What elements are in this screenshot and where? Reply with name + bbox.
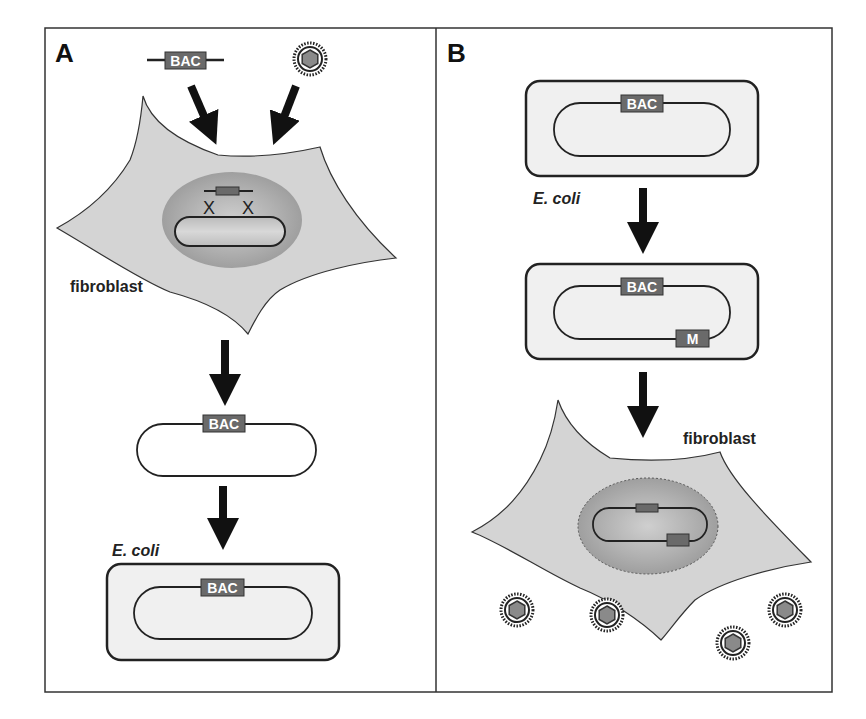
ecoli-label-b: E. coli	[533, 190, 581, 207]
fibroblast-label-a: fibroblast	[70, 278, 144, 295]
progeny-virion-icon	[769, 594, 801, 626]
panel-label-a: A	[55, 38, 74, 68]
progeny-virion-icon	[501, 594, 533, 626]
viral-genome	[175, 217, 285, 246]
bac-label-b2: BAC	[627, 279, 657, 295]
arrow-bac-into-cell	[191, 86, 210, 130]
ecoli-cell-a	[107, 564, 339, 660]
panel-a: A BAC X X fibroblast BAC	[55, 38, 396, 660]
bac-mutagenesis-diagram: A BAC X X fibroblast BAC	[0, 0, 866, 719]
input-bac-cassette: BAC	[147, 52, 224, 69]
input-bac-label: BAC	[170, 53, 200, 69]
mutation-cassette-b	[667, 534, 689, 546]
circular-bac-label: BAC	[209, 416, 239, 432]
fibroblast-label-b: fibroblast	[683, 430, 757, 447]
crossover-x-left: X	[203, 198, 215, 218]
nucleus-b	[578, 478, 718, 574]
bac-cassette-b	[636, 504, 658, 512]
mutation-label: M	[687, 331, 699, 347]
arrow-virus-into-cell	[279, 86, 296, 130]
crossover-x-right: X	[242, 198, 254, 218]
progeny-virion-icon	[717, 627, 749, 659]
ecoli-label-a: E. coli	[112, 542, 160, 559]
bac-label-b1: BAC	[627, 96, 657, 112]
panel-b: B BAC E. coli BAC M fibroblast	[447, 38, 811, 659]
progeny-virion-icon	[591, 599, 623, 631]
virion-icon	[294, 43, 326, 75]
panel-label-b: B	[447, 38, 466, 68]
ecoli-bac-label-a: BAC	[207, 580, 237, 596]
